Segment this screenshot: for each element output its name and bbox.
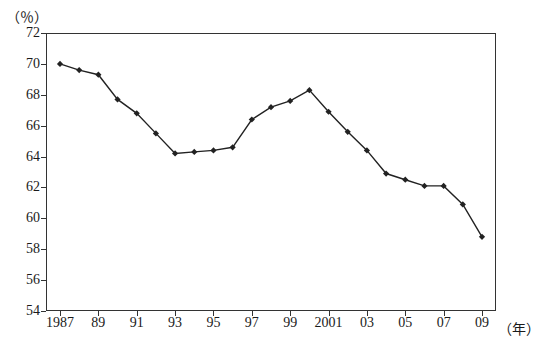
series-line xyxy=(60,64,482,237)
series-marker xyxy=(76,67,82,73)
series-marker xyxy=(210,147,216,153)
y-axis-tick-label: 68 xyxy=(10,87,40,103)
x-axis-tick-mark xyxy=(137,311,138,316)
y-axis-tick-label: 56 xyxy=(10,272,40,288)
y-axis-tick-label: 54 xyxy=(10,303,40,319)
chart-container: （％） （年） 54565860626466687072 19878991939… xyxy=(0,0,545,350)
x-axis-tick-mark xyxy=(252,311,253,316)
y-axis-tick-label: 64 xyxy=(10,149,40,165)
x-axis-tick-mark xyxy=(175,311,176,316)
series-marker xyxy=(479,234,485,240)
x-axis-tick-label: 07 xyxy=(437,315,451,331)
x-axis-tick-mark xyxy=(444,311,445,316)
x-axis-tick-label: 05 xyxy=(398,315,412,331)
series-marker xyxy=(287,98,293,104)
x-axis-tick-mark xyxy=(290,311,291,316)
x-axis-tick-mark xyxy=(405,311,406,316)
x-axis-tick-mark xyxy=(60,311,61,316)
y-axis-tick-mark xyxy=(41,311,46,312)
x-axis-tick-mark xyxy=(98,311,99,316)
y-axis-tick-label: 62 xyxy=(10,179,40,195)
line-series xyxy=(46,33,496,311)
x-axis-tick-mark xyxy=(367,311,368,316)
y-axis-tick-label: 70 xyxy=(10,56,40,72)
y-axis-tick-label: 58 xyxy=(10,241,40,257)
x-axis-tick-label: 95 xyxy=(206,315,220,331)
y-axis-tick-label: 72 xyxy=(10,25,40,41)
series-marker xyxy=(421,183,427,189)
y-axis-unit-label: （％） xyxy=(6,6,48,26)
x-axis-tick-label: 03 xyxy=(360,315,374,331)
series-marker xyxy=(57,61,63,67)
x-axis-tick-label: 99 xyxy=(283,315,297,331)
x-axis-tick-mark xyxy=(329,311,330,316)
series-marker xyxy=(191,149,197,155)
x-axis-tick-mark xyxy=(482,311,483,316)
x-axis-unit-label: （年） xyxy=(498,318,540,338)
x-axis-tick-label: 09 xyxy=(475,315,489,331)
x-axis-tick-label: 1987 xyxy=(46,315,74,331)
x-axis-tick-label: 2001 xyxy=(315,315,343,331)
x-axis-tick-mark xyxy=(213,311,214,316)
x-axis-tick-label: 91 xyxy=(130,315,144,331)
y-axis-tick-label: 60 xyxy=(10,210,40,226)
x-axis-tick-label: 89 xyxy=(91,315,105,331)
y-axis-tick-label: 66 xyxy=(10,118,40,134)
x-axis-tick-label: 97 xyxy=(245,315,259,331)
x-axis-tick-label: 93 xyxy=(168,315,182,331)
series-marker xyxy=(402,177,408,183)
